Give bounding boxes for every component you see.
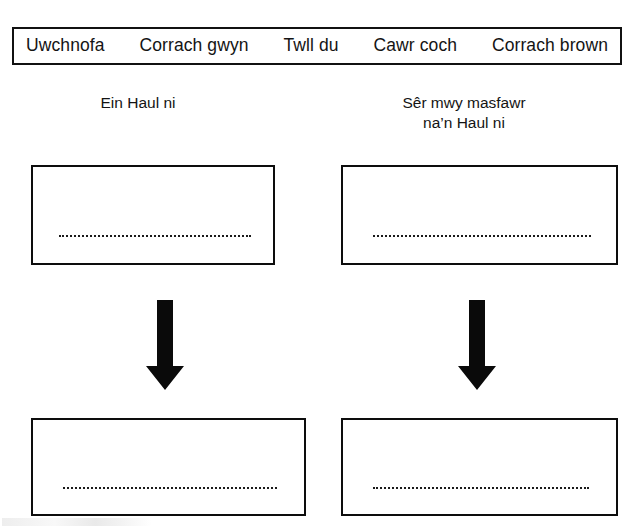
word-bank: Uwchnofa Corrach gwyn Twll du Cawr coch … [12,27,622,65]
column-heading-left: Ein Haul ni [30,93,246,113]
word-bank-item-twll-du[interactable]: Twll du [283,37,338,55]
answer-box-bottom-right[interactable] [341,418,618,516]
word-bank-item-uwchnofa[interactable]: Uwchnofa [26,37,105,55]
down-arrow-right [452,300,502,390]
word-bank-item-corrach-brown[interactable]: Corrach brown [492,37,608,55]
answer-dotted-line [373,233,591,237]
answer-dotted-line [373,485,589,489]
word-bank-item-corrach-gwyn[interactable]: Corrach gwyn [139,37,248,55]
answer-dotted-line [59,233,251,237]
answer-box-top-right[interactable] [341,165,618,265]
answer-box-bottom-left[interactable] [31,418,306,516]
answer-box-top-left[interactable] [31,165,275,265]
column-heading-right: Sêr mwy masfawr na’n Haul ni [340,93,588,133]
answer-dotted-line [63,485,277,489]
down-arrow-left [140,300,190,390]
scan-artifact [2,518,152,526]
word-bank-item-cawr-coch[interactable]: Cawr coch [374,37,458,55]
